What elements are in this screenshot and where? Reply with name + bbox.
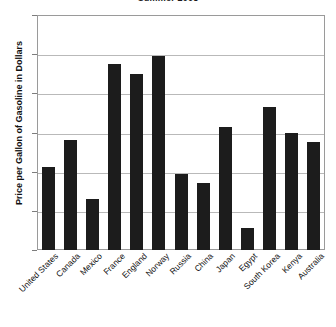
x-tick-label: China <box>192 251 215 274</box>
bar <box>86 199 99 250</box>
bar <box>64 140 77 250</box>
bar <box>152 56 165 250</box>
x-tick-label: Japan <box>214 251 237 274</box>
x-tick-label: Mexico <box>78 251 104 277</box>
bar-chart: Summer 2008 Price per Gallon of Gasoline… <box>0 0 336 327</box>
bar <box>219 127 232 250</box>
bar <box>175 174 188 250</box>
y-tick-mark <box>32 172 37 173</box>
x-tick-label: Russia <box>168 251 193 276</box>
y-tick-mark <box>32 93 37 94</box>
bar <box>42 167 55 250</box>
bar <box>108 64 121 250</box>
bar <box>263 107 276 250</box>
bar <box>307 142 320 250</box>
y-tick-mark <box>32 250 37 251</box>
bar <box>241 228 254 250</box>
bar <box>130 74 143 250</box>
y-tick-mark <box>32 211 37 212</box>
bars-layer <box>37 15 325 250</box>
bar <box>197 183 210 250</box>
bar <box>285 133 298 250</box>
y-tick-mark <box>32 133 37 134</box>
x-axis-labels: United StatesCanadaMexicoFranceEnglandNo… <box>37 251 325 327</box>
x-tick-label: Canada <box>54 251 82 279</box>
y-tick-mark <box>32 15 37 16</box>
y-axis-title: Price per Gallon of Gasoline in Dollars <box>14 8 24 238</box>
y-tick-mark <box>32 54 37 55</box>
chart-title: Summer 2008 <box>0 0 336 3</box>
x-tick-label: Norway <box>143 251 170 278</box>
